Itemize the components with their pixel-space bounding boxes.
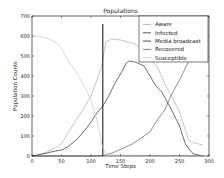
x-tick-label: 0: [30, 158, 33, 164]
x-tick-label: 300: [204, 158, 214, 164]
y-tick-label: 0: [27, 153, 30, 159]
series-recovered: [32, 56, 191, 156]
legend: AwareInfectedMedia broadcastRecoveredSus…: [139, 16, 208, 62]
y-tick-label: 100: [20, 133, 30, 139]
y-tick-label: 400: [20, 73, 30, 79]
y-axis-label: Population Counts: [12, 61, 19, 111]
y-tick-label: 500: [20, 53, 30, 59]
x-tick-label: 100: [86, 158, 96, 164]
x-tick-label: 50: [58, 158, 64, 164]
x-tick-label: 250: [175, 158, 185, 164]
legend-label: Aware: [155, 21, 173, 27]
y-tick-label: 600: [20, 33, 30, 39]
legend-label: Media broadcast: [155, 38, 201, 44]
y-tick-label: 700: [20, 13, 30, 19]
chart-title: Populations: [103, 7, 138, 15]
legend-label: Infected: [155, 30, 177, 36]
x-tick-label: 200: [145, 158, 155, 164]
y-tick-label: 200: [20, 113, 30, 119]
populations-chart: Populations 050100150200250300 010020030…: [0, 0, 224, 178]
x-axis-label: Time Steps: [104, 163, 136, 170]
legend-label: Recovered: [155, 46, 184, 52]
y-tick-label: 300: [20, 93, 30, 99]
legend-label: Susceptible: [155, 55, 187, 62]
